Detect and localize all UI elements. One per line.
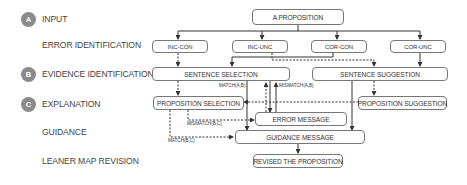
node-cor-unc: COR-UNC xyxy=(390,40,446,53)
node-guidance-message: GUIDANCE MESSAGE xyxy=(235,130,365,144)
edge-label-mismatch-bc: MISMATCH(B,C) xyxy=(187,121,222,126)
node-proposition-suggestion: PROPOSITION SUGGESTION xyxy=(358,96,447,110)
node-proposition-selection: PROPOSITION SELECTION xyxy=(153,96,244,110)
edge-label-mismatch-ab: MISMATCH(A,B) xyxy=(279,83,314,88)
node-inc-con: INC-CON xyxy=(152,40,208,53)
node-error-message: ERROR MESSAGE xyxy=(255,112,347,126)
node-sentence-suggestion: SENTENCE SUGGESTION xyxy=(312,67,448,81)
edge-label-match-bc: MATCH(B,C) xyxy=(168,138,195,143)
node-revised-proposition: REVISED THE PROPOSITION xyxy=(253,154,343,168)
node-sentence-selection: SENTENCE SELECTION xyxy=(152,67,290,81)
node-inc-unc: INC-UNC xyxy=(232,40,288,53)
edge-label-match-ab: MATCH(A,B) xyxy=(219,83,245,88)
connector-layer xyxy=(0,0,467,185)
node-cor-con: COR-CON xyxy=(311,40,367,53)
flow-diagram: A INPUT ERROR IDENTIFICATION B EVIDENCE … xyxy=(0,0,467,185)
node-proposition: A PROPOSITION xyxy=(252,9,344,25)
